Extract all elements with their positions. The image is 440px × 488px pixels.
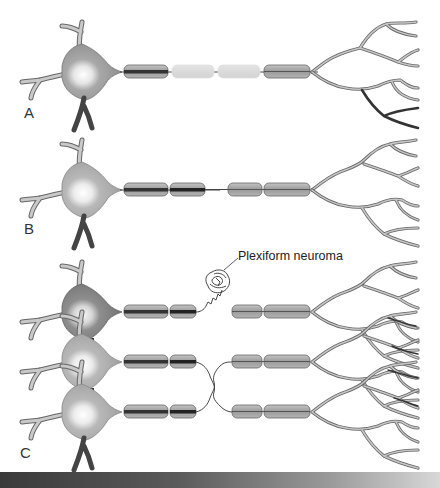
panel-c: [22, 258, 418, 470]
panel-label-b: B: [24, 220, 34, 237]
neuron-soma-b: [22, 140, 122, 248]
page-edge-bar: [0, 472, 440, 488]
regenerating-sprouts: [196, 290, 232, 412]
axon-terminal-a: [312, 22, 418, 128]
axon-terminals-c: [312, 262, 418, 468]
panel-b: [22, 140, 418, 248]
panel-label-c: C: [20, 444, 31, 461]
distal-axons-c: [232, 305, 310, 418]
panel-a: [22, 22, 418, 130]
neuroma-tangle: [206, 258, 238, 293]
plexiform-neuroma-label: Plexiform neuroma: [238, 249, 343, 263]
neuron-diagram: A B C Plexiform neuroma: [0, 0, 440, 488]
neuron-soma-a: [22, 22, 122, 130]
proximal-axons-c: [124, 305, 196, 418]
axon-terminal-b: [312, 140, 418, 246]
panel-label-a: A: [24, 104, 34, 121]
